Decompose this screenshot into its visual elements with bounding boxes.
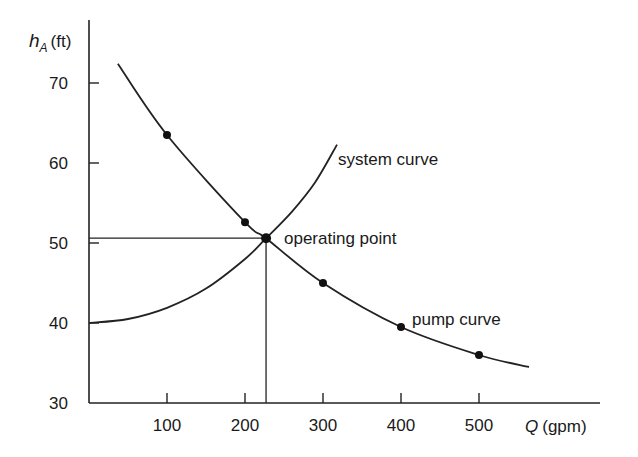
x-tick-label: 200 [231, 416, 259, 435]
y-tick-label: 60 [49, 154, 68, 173]
y-tick-label: 40 [49, 314, 68, 333]
pump-data-point [163, 131, 171, 139]
pump-data-point [397, 323, 405, 331]
y-tick-label: 70 [49, 74, 68, 93]
annotations: system curveoperating pointpump curve [284, 150, 501, 329]
operating-point-marker [261, 233, 271, 243]
pump-curve-label: pump curve [412, 310, 501, 329]
x-axis-label: Q(gpm) [525, 417, 587, 436]
operating-point-label: operating point [284, 229, 397, 248]
y-axis-label: hA(ft) [29, 30, 71, 55]
pump-data-point [241, 218, 249, 226]
pump-data-point [475, 351, 483, 359]
system-curve-label: system curve [338, 150, 438, 169]
x-tick-label: 400 [387, 416, 415, 435]
pump-data-point [319, 279, 327, 287]
x-tick-label: 300 [309, 416, 337, 435]
x-tick-label: 100 [153, 416, 181, 435]
axes: 3040506070100200300400500hA(ft)Q(gpm) [29, 20, 600, 436]
y-tick-label: 50 [49, 234, 68, 253]
pump-system-chart: 3040506070100200300400500hA(ft)Q(gpm) sy… [0, 0, 638, 457]
x-tick-label: 500 [465, 416, 493, 435]
y-tick-label: 30 [49, 394, 68, 413]
